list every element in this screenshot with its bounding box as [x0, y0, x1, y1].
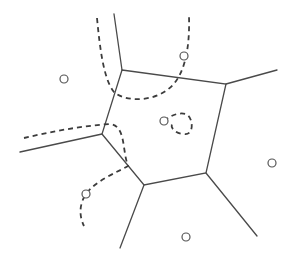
- voronoi-diagram: [0, 0, 296, 263]
- voronoi-ray-3: [120, 185, 144, 248]
- voronoi-cell: [102, 70, 226, 185]
- voronoi-ray-1: [226, 70, 277, 84]
- site-top-right-icon: [180, 52, 188, 60]
- site-bottom-left-icon: [82, 190, 90, 198]
- voronoi-edges: [20, 14, 277, 248]
- site-center-icon: [160, 117, 168, 125]
- path-top: [97, 16, 189, 99]
- site-outer-right-icon: [268, 159, 276, 167]
- path-center-loop: [164, 113, 192, 134]
- site-outer-bottom-icon: [182, 233, 190, 241]
- voronoi-ray-0: [114, 14, 122, 70]
- site-outer-top-left-icon: [60, 75, 68, 83]
- sites: [60, 52, 276, 241]
- voronoi-ray-2: [206, 173, 257, 236]
- voronoi-rays: [20, 14, 277, 248]
- voronoi-ray-4: [20, 134, 102, 152]
